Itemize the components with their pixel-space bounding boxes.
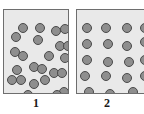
particle (82, 39, 92, 49)
particle (103, 39, 113, 49)
particle (33, 35, 43, 45)
particle (128, 87, 138, 94)
particle (18, 23, 28, 33)
particle (40, 75, 50, 85)
particle-field-2 (77, 10, 144, 93)
particle (18, 51, 28, 61)
particle (57, 68, 67, 78)
particle (35, 23, 45, 33)
particle (80, 71, 90, 81)
particle (23, 90, 33, 94)
particle (122, 23, 132, 33)
particle (12, 65, 22, 75)
particle (60, 24, 69, 34)
particle-field-1 (4, 10, 68, 93)
particle (124, 57, 134, 67)
particle-diagram-figure: 12 (0, 0, 144, 114)
particle (52, 90, 62, 94)
particle (16, 75, 26, 85)
particle (44, 51, 54, 61)
panel-label-1: 1 (3, 96, 69, 110)
particle (82, 23, 92, 33)
particle (101, 23, 111, 33)
particle (122, 73, 132, 83)
panel-label-2: 2 (76, 96, 138, 110)
particle (84, 87, 94, 94)
particle-box-1 (3, 9, 69, 94)
particle (140, 23, 144, 33)
particle (11, 32, 21, 42)
particle (101, 71, 111, 81)
particle (82, 55, 92, 65)
particle (37, 64, 47, 74)
particle (140, 71, 144, 81)
particle-box-2 (76, 9, 144, 94)
particle (140, 55, 144, 65)
particle (140, 37, 144, 47)
particle (122, 41, 132, 51)
particle (105, 89, 115, 94)
particle (63, 41, 69, 51)
particle (103, 57, 113, 67)
particle (60, 53, 69, 63)
particle (29, 79, 39, 89)
